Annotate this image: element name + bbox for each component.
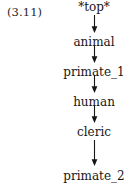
hierarchy-chain: *top* animal primate_1 human: [56, 0, 132, 186]
chain-node-top: *top*: [56, 1, 132, 14]
down-arrow-icon: [56, 140, 132, 158]
down-arrow-icon: [56, 75, 132, 93]
chain-node-primate-2: primate_2: [56, 170, 132, 183]
equation-number: (3.11): [7, 6, 42, 19]
down-arrow-icon: [56, 45, 132, 63]
down-arrow-icon: [56, 15, 132, 33]
chain-node-cleric: cleric: [56, 126, 132, 139]
down-arrow-icon: [56, 105, 132, 123]
figure-root: (3.11) *top* animal primate_1 human: [0, 0, 132, 186]
